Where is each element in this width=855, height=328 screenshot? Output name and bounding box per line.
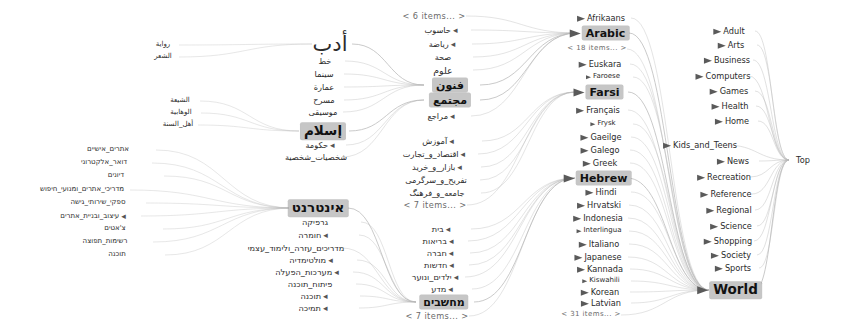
- tree-node-hebrew-internet-leaf-5[interactable]: עיצוב_ובניית_אתרים◂: [60, 212, 126, 221]
- expand-triangle-icon[interactable]: [574, 254, 582, 260]
- tree-node-world-language-0[interactable]: Afrikaans: [577, 14, 625, 23]
- expand-triangle-icon[interactable]: [718, 42, 726, 48]
- expand-triangle-icon[interactable]: [583, 160, 591, 166]
- tree-node-top-category-16[interactable]: World: [697, 282, 761, 298]
- tree-node-hebrew-child-3[interactable]: חדשות◂: [424, 261, 454, 270]
- expand-triangle-icon[interactable]: [711, 252, 719, 258]
- expand-triangle-icon[interactable]: [581, 147, 589, 153]
- tree-node-arabic-arts-child-0[interactable]: خط: [319, 57, 332, 66]
- tree-node-islam-leaf-1[interactable]: الوهابية: [170, 109, 191, 116]
- expand-triangle-icon[interactable]: [706, 207, 714, 213]
- tree-node-arabic-literature-leaf-1[interactable]: الشعر: [154, 53, 172, 60]
- tree-node-arabic-child-3[interactable]: علوم: [433, 65, 452, 75]
- tree-node-top-category-11[interactable]: Regional: [706, 206, 751, 215]
- tree-node-top-category-14[interactable]: Society: [711, 251, 751, 260]
- tree-node-hebrew-child-2[interactable]: חברה◂: [427, 249, 454, 258]
- expand-triangle-icon[interactable]: [581, 300, 589, 306]
- expand-triangle-icon[interactable]: [576, 107, 584, 113]
- tree-node-hebrew-computers-child-0[interactable]: גרפיקה: [302, 218, 328, 227]
- tree-node-arabic-child-1[interactable]: رياضة◂: [429, 40, 456, 49]
- tree-node-world-language-5[interactable]: Farsi: [573, 86, 622, 99]
- expand-triangle-icon[interactable]: [696, 73, 704, 79]
- tree-node-hebrew-internet-leaf-3[interactable]: מדריכי_אתרים_ומנועי_חיפוש: [40, 186, 124, 193]
- tree-node-arabic-society-child-1[interactable]: شخصيات_شخصية: [285, 153, 347, 162]
- tree-node-hebrew-child-5[interactable]: מדע◂: [431, 285, 453, 294]
- tree-node-farsi-child-3[interactable]: تفریح_و_سرگرمی: [405, 176, 467, 185]
- collapsed-items-node-arabic-items-top[interactable]: < 6 items... >: [403, 12, 466, 21]
- tree-node-hebrew-child-0[interactable]: בית◂: [432, 225, 450, 234]
- tree-node-arabic-child-4[interactable]: فنون: [433, 79, 467, 92]
- expand-triangle-icon[interactable]: [713, 28, 721, 34]
- expand-triangle-icon[interactable]: [715, 118, 723, 124]
- expand-triangle-icon[interactable]: [590, 122, 595, 126]
- tree-node-farsi-child-1[interactable]: اقتصاد_و_تجارت◂: [403, 150, 465, 159]
- tree-node-top-category-15[interactable]: Sports: [715, 264, 751, 273]
- tree-node-top-category-4[interactable]: Games: [710, 87, 749, 96]
- tree-node-arabic-arts-child-1[interactable]: سينما: [314, 70, 333, 79]
- expand-triangle-icon[interactable]: [710, 88, 718, 94]
- tree-node-top-category-8[interactable]: News: [717, 157, 749, 166]
- expand-triangle-icon[interactable]: [577, 229, 582, 233]
- expand-triangle-icon[interactable]: [715, 265, 723, 271]
- expand-triangle-icon[interactable]: [700, 191, 708, 197]
- tree-node-world-language-19[interactable]: Kiswahili: [582, 277, 619, 284]
- expand-triangle-icon[interactable]: [580, 134, 588, 140]
- tree-node-world-language-8[interactable]: Gaeilge: [580, 133, 621, 142]
- tree-node-world-language-1[interactable]: Arabic: [570, 27, 629, 40]
- expand-triangle-icon[interactable]: [570, 29, 581, 37]
- expand-triangle-icon[interactable]: [585, 189, 593, 195]
- tree-node-world-language-14[interactable]: Indonesia: [573, 214, 623, 223]
- tree-node-hebrew-internet-leaf-0[interactable]: אתרים_אישיים: [87, 146, 129, 153]
- tree-node-top-category-12[interactable]: Science: [710, 222, 752, 231]
- expand-triangle-icon[interactable]: [586, 75, 591, 79]
- tree-node-world-language-7[interactable]: Frysk: [590, 120, 615, 127]
- tree-node-world-language-15[interactable]: Interlingua: [577, 227, 622, 234]
- tree-node-arabic-society-child-0[interactable]: حكومة◂: [305, 141, 334, 150]
- expand-triangle-icon[interactable]: [573, 215, 581, 221]
- tree-node-hebrew-child-4[interactable]: ילדים_ונוער◂: [412, 273, 458, 282]
- tree-node-world-language-3[interactable]: Euskara: [579, 60, 622, 69]
- expand-triangle-icon[interactable]: [717, 158, 725, 164]
- collapsed-items-node-hebrew-items-bottom[interactable]: < 7 items... >: [406, 312, 469, 321]
- tree-node-hebrew-computers-child-5[interactable]: פיתוח_תוכנה: [288, 280, 333, 289]
- expand-triangle-icon[interactable]: [579, 61, 587, 67]
- tree-node-top-category-10[interactable]: Reference: [700, 190, 751, 199]
- tree-node-arabic-arts-child-4[interactable]: موسيقى: [309, 108, 338, 117]
- expand-triangle-icon[interactable]: [712, 103, 720, 109]
- tree-node-islam-leaf-0[interactable]: الشيعة: [170, 97, 190, 104]
- tree-node-hebrew-computers-child-7[interactable]: תמיכה◂: [299, 304, 328, 313]
- tree-node-hebrew-computers-child-2[interactable]: מדריכים_עזרה_ולימוד_עצמי: [248, 244, 345, 253]
- collapsed-items-node-world-language-2[interactable]: < 18 items... >: [567, 45, 626, 52]
- tree-node-arabic-child-6[interactable]: مراجع◂: [427, 112, 454, 121]
- expand-triangle-icon[interactable]: [697, 174, 705, 180]
- tree-node-top-category-7[interactable]: Kids_and_Teens: [663, 141, 737, 150]
- tree-node-farsi-child-0[interactable]: آموزش◂: [422, 137, 453, 146]
- expand-triangle-icon[interactable]: [564, 174, 575, 182]
- tree-node-world-language-17[interactable]: Japanese: [574, 253, 621, 262]
- expand-triangle-icon[interactable]: [577, 15, 585, 21]
- tree-node-world-language-20[interactable]: Korean: [581, 288, 619, 297]
- tree-node-top-category-9[interactable]: Recreation: [697, 173, 751, 182]
- tree-node-world-language-18[interactable]: Kannada: [577, 265, 623, 274]
- tree-node-top-category-3[interactable]: Computers: [696, 72, 751, 81]
- tree-node-hebrew-internet-leaf-7[interactable]: רשימות_תפוצה: [83, 238, 128, 245]
- tree-node-arabic-society-parent[interactable]: إسلام: [301, 123, 345, 139]
- tree-node-world-language-21[interactable]: Latvian: [581, 299, 621, 308]
- tree-node-arabic-arts-child-2[interactable]: عمارة: [314, 83, 334, 92]
- expand-triangle-icon[interactable]: [579, 241, 587, 247]
- expand-triangle-icon[interactable]: [581, 289, 589, 295]
- tree-node-arabic-literature-leaf-0[interactable]: رواية: [156, 41, 170, 48]
- tree-node-world-language-4[interactable]: Faroese: [586, 73, 620, 80]
- expand-triangle-icon[interactable]: [582, 279, 587, 283]
- tree-node-hebrew-computers-child-3[interactable]: מולטימדיה◂: [289, 256, 332, 265]
- tree-node-hebrew-internet-leaf-1[interactable]: דואר_אלקטרוני: [81, 159, 127, 166]
- tree-node-arabic-child-5[interactable]: مجتمع: [430, 94, 470, 107]
- tree-node-hebrew-internet-leaf-4[interactable]: ספקי_שירותי_גישה: [71, 199, 126, 206]
- tree-node-hebrew-computers-child-6[interactable]: תוכנה◂: [300, 292, 327, 301]
- expand-triangle-icon[interactable]: [710, 223, 718, 229]
- tree-node-farsi-child-2[interactable]: بازار_و_خرید◂: [412, 163, 462, 172]
- tree-node-hebrew-internet-leaf-2[interactable]: דיונים: [108, 172, 124, 179]
- expand-triangle-icon[interactable]: [704, 238, 712, 244]
- expand-triangle-icon[interactable]: [697, 286, 708, 294]
- tree-node-world-language-16[interactable]: Italiano: [579, 240, 619, 249]
